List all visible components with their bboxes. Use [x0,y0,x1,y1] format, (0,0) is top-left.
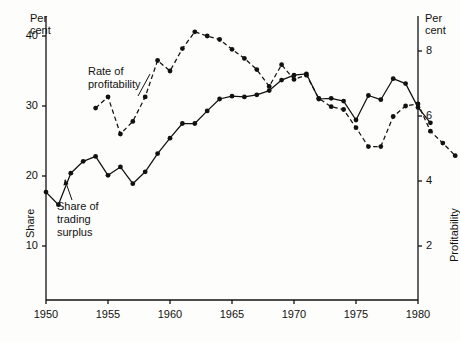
series-marker [168,69,173,74]
series-marker [68,171,73,176]
series-marker [230,47,235,52]
series-marker [440,141,445,146]
series-marker [106,95,111,100]
series-marker [118,132,123,137]
series-line-rate-of-profitability [96,32,456,156]
x-axis-tick-label: 1975 [340,308,372,320]
series-marker [378,144,383,149]
series-marker [192,121,197,126]
series-marker [254,67,259,72]
annotation-leader-lines [63,74,150,200]
series-marker [155,58,160,63]
x-axis-tick-label: 1960 [154,308,186,320]
series-marker [118,165,123,170]
series-marker [267,88,272,93]
y-axis-left-title: Share [24,209,36,238]
series-marker [254,92,259,97]
x-axis-tick-label: 1965 [216,308,248,320]
series-marker [143,169,148,174]
x-axis-tick-label: 1980 [402,308,434,320]
series-label-rate-of-profitability: Rate of profitability [88,65,141,91]
series-marker [329,96,334,101]
series-marker [366,93,371,98]
series-marker [93,154,98,159]
y-axis-right-tick-label: 6 [426,109,432,121]
series-marker [341,99,346,104]
series-marker [329,104,334,109]
series-marker [205,34,210,39]
series-marker [267,84,272,89]
series-marker [416,102,421,107]
y-axis-right-tick-label: 2 [426,239,432,251]
series-marker [130,181,135,186]
series-marker [192,29,197,34]
y-axis-left-tick-label: 20 [20,169,38,181]
series-marker [242,56,247,61]
series-marker [453,153,458,158]
series-marker [230,94,235,99]
series-marker [106,173,111,178]
series-marker [279,78,284,83]
series-marker [428,129,433,134]
y-axis-left-tick-label: 30 [20,99,38,111]
series-line-share-of-trading-surplus [46,74,430,205]
y-axis-left-tick-label: 40 [20,29,38,41]
series-marker [180,121,185,126]
series-marker [341,107,346,112]
series-label-share-of-trading-surplus: Share of trading surplus [57,200,99,239]
series-marker [391,114,396,119]
series-marker [279,62,284,67]
series-marker [354,118,359,123]
y-axis-right-tick-label: 8 [426,44,432,56]
series-marker [143,95,148,100]
y-axis-right-unit-label: Per cent [425,12,446,36]
series-marker [205,109,210,114]
chart-series [44,29,458,207]
series-marker [304,73,309,78]
series-marker [316,96,321,101]
series-marker [292,77,297,82]
series-marker [391,76,396,81]
series-marker [155,151,160,156]
series-marker [44,190,49,195]
series-marker [180,46,185,51]
y-axis-right-tick-label: 4 [426,174,432,186]
x-axis-tick-label: 1955 [92,308,124,320]
series-marker [403,81,408,86]
y-axis-right-title: Profitability [448,208,460,262]
series-marker [428,120,433,125]
series-marker [366,144,371,149]
y-axis-left-tick-label: 10 [20,239,38,251]
chart-axes [42,16,422,304]
series-marker [130,119,135,124]
series-marker [168,136,173,141]
series-marker [81,159,86,164]
series-marker [378,97,383,102]
series-marker [242,95,247,100]
series-marker [93,106,98,111]
x-axis-tick-label: 1970 [278,308,310,320]
series-marker [403,104,408,109]
series-marker [354,125,359,130]
series-marker [217,97,222,102]
series-marker [217,37,222,42]
x-axis-tick-label: 1950 [30,308,62,320]
